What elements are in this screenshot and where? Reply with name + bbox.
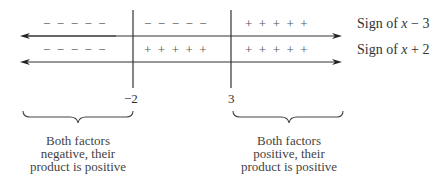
row-1-signs-right: + + + + +: [245, 16, 308, 32]
row-2-label-prefix: Sign of: [357, 42, 401, 57]
row-2-label: Sign of x + 2: [357, 42, 429, 58]
caption-right: Both factors positive, their product is …: [214, 134, 364, 173]
row-1-signs-left: − − − − −: [43, 16, 106, 32]
row-1-label: Sign of x − 3: [357, 16, 429, 32]
row-2-signs-left: − − − − −: [43, 42, 106, 58]
row-1-signs-middle: − − − − −: [144, 16, 207, 32]
number-line-row-1: [20, 33, 342, 39]
row-2-signs-middle: + + + + +: [144, 42, 207, 58]
caption-left-line-3: product is positive: [3, 160, 153, 173]
tick-label-3: 3: [228, 91, 235, 107]
number-line-row-2: [20, 59, 342, 65]
right-brace: [233, 111, 343, 123]
left-brace: [23, 111, 133, 123]
row-2-signs-right: + + + + +: [245, 42, 308, 58]
row-1-label-prefix: Sign of: [357, 16, 401, 31]
caption-right-line-3: product is positive: [214, 160, 364, 173]
row-2-label-suffix: + 2: [408, 42, 430, 57]
tick-label-minus-2: −2: [124, 91, 138, 107]
caption-left: Both factors negative, their product is …: [3, 134, 153, 173]
row-1-label-suffix: − 3: [408, 16, 430, 31]
